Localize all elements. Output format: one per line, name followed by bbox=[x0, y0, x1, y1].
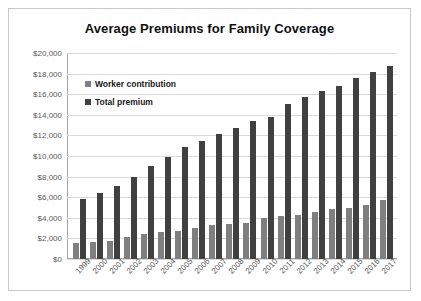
bar bbox=[319, 91, 325, 259]
bar bbox=[131, 177, 137, 259]
legend-swatch-icon bbox=[85, 81, 91, 87]
y-axis-tick-label: $8,000 bbox=[38, 172, 62, 181]
x-tick-slot: 2010 bbox=[259, 261, 276, 295]
bar-group bbox=[327, 53, 344, 259]
bar bbox=[97, 193, 103, 259]
x-tick-slot: 2008 bbox=[224, 261, 241, 295]
bar bbox=[278, 216, 284, 259]
bar-group bbox=[207, 53, 224, 259]
x-tick-slot: 2016 bbox=[361, 261, 378, 295]
x-tick-slot: 2009 bbox=[241, 261, 258, 295]
bar bbox=[285, 104, 291, 259]
x-tick-slot: 2012 bbox=[293, 261, 310, 295]
bar-group bbox=[293, 53, 310, 259]
x-tick-slot: 2015 bbox=[344, 261, 361, 295]
bar bbox=[261, 218, 267, 259]
bar bbox=[353, 78, 359, 259]
bar bbox=[80, 199, 86, 259]
legend-item[interactable]: Worker contribution bbox=[85, 79, 176, 89]
bar bbox=[90, 242, 96, 259]
bar-group bbox=[241, 53, 258, 259]
y-axis-tick-label: $20,000 bbox=[33, 49, 62, 58]
bar-group bbox=[344, 53, 361, 259]
bar bbox=[302, 97, 308, 259]
x-tick-slot: 2000 bbox=[88, 261, 105, 295]
bar bbox=[73, 243, 79, 259]
y-axis-tick-label: $4,000 bbox=[38, 213, 62, 222]
bar bbox=[295, 215, 301, 259]
x-tick-slot: 2004 bbox=[156, 261, 173, 295]
y-axis-tick-label: $6,000 bbox=[38, 193, 62, 202]
bar-group bbox=[259, 53, 276, 259]
x-tick-slot: 2011 bbox=[276, 261, 293, 295]
legend-item[interactable]: Total premium bbox=[85, 97, 176, 107]
bar-group bbox=[361, 53, 378, 259]
x-tick-slot: 2005 bbox=[173, 261, 190, 295]
bar bbox=[192, 228, 198, 259]
bar bbox=[107, 241, 113, 259]
bar bbox=[336, 86, 342, 259]
bar bbox=[346, 208, 352, 259]
bar bbox=[124, 237, 130, 259]
legend-item-label: Total premium bbox=[95, 97, 153, 107]
bar-group bbox=[276, 53, 293, 259]
bar bbox=[243, 223, 249, 259]
bar-group bbox=[310, 53, 327, 259]
y-axis-tick-label: $2,000 bbox=[38, 234, 62, 243]
x-tick-slot: 2007 bbox=[207, 261, 224, 295]
bar bbox=[370, 72, 376, 259]
x-tick-slot: 2013 bbox=[310, 261, 327, 295]
bar bbox=[165, 157, 171, 259]
bar bbox=[380, 200, 386, 259]
bar bbox=[209, 225, 215, 259]
bar bbox=[148, 166, 154, 259]
x-tick-slot: 2017 bbox=[378, 261, 395, 295]
x-tick-slot: 2003 bbox=[139, 261, 156, 295]
bar bbox=[158, 232, 164, 259]
y-axis-tick-label: $16,000 bbox=[33, 90, 62, 99]
x-tick-slot: 2006 bbox=[190, 261, 207, 295]
bar bbox=[141, 234, 147, 259]
chart-legend: Worker contributionTotal premium bbox=[85, 79, 176, 107]
bar bbox=[216, 134, 222, 259]
bar bbox=[329, 209, 335, 259]
y-axis-tick-label: $18,000 bbox=[33, 69, 62, 78]
bar bbox=[199, 141, 205, 259]
bar-group bbox=[224, 53, 241, 259]
y-axis-tick-label: $14,000 bbox=[33, 110, 62, 119]
bar bbox=[268, 117, 274, 259]
x-tick-slot: 2014 bbox=[327, 261, 344, 295]
chart-container: Average Premiums for Family Coverage $20… bbox=[8, 8, 411, 291]
y-axis-tick-label: $0 bbox=[53, 255, 62, 264]
x-axis-tick-labels: 1999200020012002200320042005200620072008… bbox=[67, 261, 397, 295]
bar bbox=[363, 205, 369, 259]
bar bbox=[250, 121, 256, 259]
bar-group bbox=[190, 53, 207, 259]
bar bbox=[387, 66, 393, 259]
legend-swatch-icon bbox=[85, 99, 91, 105]
legend-item-label: Worker contribution bbox=[95, 79, 176, 89]
bar bbox=[312, 212, 318, 259]
x-tick-slot: 2002 bbox=[122, 261, 139, 295]
x-tick-slot: 2001 bbox=[105, 261, 122, 295]
y-axis-tick-label: $10,000 bbox=[33, 152, 62, 161]
x-tick-slot: 1999 bbox=[71, 261, 88, 295]
bar-group bbox=[378, 53, 395, 259]
bar bbox=[226, 224, 232, 259]
y-axis-tick-label: $12,000 bbox=[33, 131, 62, 140]
bar bbox=[233, 128, 239, 259]
bar bbox=[114, 186, 120, 259]
bar bbox=[175, 231, 181, 259]
chart-title: Average Premiums for Family Coverage bbox=[9, 21, 410, 36]
bar bbox=[182, 147, 188, 259]
